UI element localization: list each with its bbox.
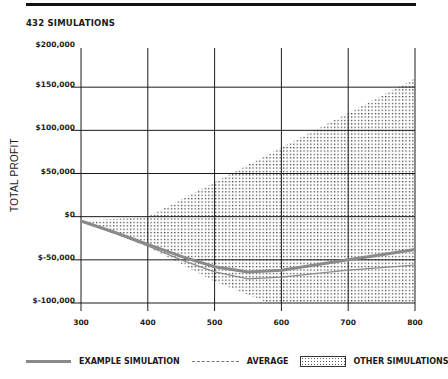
other-simulations-swatch [300, 356, 346, 367]
legend-other-label: OTHER SIMULATIONS [353, 357, 448, 366]
x-tick-label: 800 [407, 318, 423, 327]
x-tick-label: 500 [207, 318, 223, 327]
legend: EXAMPLE SIMULATION AVERAGE OTHER SIMULAT… [26, 354, 448, 368]
x-tick-label: 300 [73, 318, 89, 327]
y-tick-label: $-100,000 [33, 296, 76, 305]
x-tick-label: 400 [140, 318, 156, 327]
x-tick-label: 700 [340, 318, 356, 327]
y-tick-label: $0 [65, 209, 75, 218]
y-tick-label: $50,000 [41, 166, 75, 175]
legend-average-label: AVERAGE [247, 357, 289, 366]
y-tick-label: $200,000 [36, 40, 75, 49]
example-simulation-swatch [26, 360, 71, 363]
legend-example-label: EXAMPLE SIMULATION [79, 357, 180, 366]
y-tick-label: $100,000 [36, 123, 75, 132]
average-swatch [192, 361, 239, 362]
y-tick-label: $150,000 [36, 80, 75, 89]
y-tick-label: $-50,000 [38, 252, 75, 261]
x-tick-label: 600 [274, 318, 290, 327]
